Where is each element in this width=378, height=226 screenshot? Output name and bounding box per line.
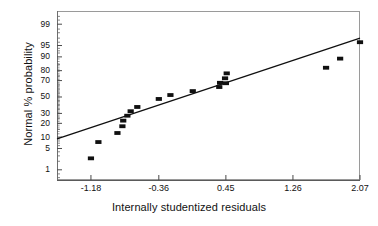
data-point-marker [167, 93, 173, 97]
data-point-marker [357, 40, 363, 44]
y-tick-label: 10 [41, 133, 50, 142]
data-point-marker [323, 66, 329, 70]
y-tick-label: 95 [41, 41, 50, 50]
data-point-marker [134, 105, 140, 109]
data-point-marker [124, 114, 130, 118]
x-tick-label: 2.07 [351, 183, 369, 193]
y-tick-label: 50 [41, 92, 50, 101]
data-point-marker [95, 140, 101, 144]
y-tick-label: 5 [45, 144, 50, 153]
data-point-marker [223, 81, 229, 85]
data-point-marker [217, 81, 223, 85]
data-point-marker [114, 131, 120, 135]
y-tick-label: 99 [41, 20, 50, 29]
data-point-marker [88, 156, 94, 160]
y-axis-title: Normal % probability [22, 14, 34, 174]
y-tick-label: 80 [41, 66, 50, 75]
x-axis-title: Internally studentized residuals [0, 201, 378, 213]
data-point-marker [224, 71, 230, 75]
data-point-marker [222, 76, 228, 80]
x-tick-label: 1.26 [284, 183, 302, 193]
y-tick-label: 20 [41, 119, 50, 128]
data-point-marker [128, 109, 134, 113]
data-point-marker [156, 97, 162, 101]
y-tick-label: 1 [45, 165, 50, 174]
reference-line [57, 38, 360, 139]
data-point-marker [120, 119, 126, 123]
y-tick-label: 70 [41, 76, 50, 85]
x-tick-label: -1.18 [81, 183, 102, 193]
normal-probability-plot: 99959080705030201051 -1.18-0.360.451.262… [0, 0, 378, 226]
y-tick-label: 90 [41, 52, 50, 61]
data-point-marker [119, 124, 125, 128]
data-point-marker [190, 89, 196, 93]
data-point-marker [216, 85, 222, 89]
x-tick-label: -0.36 [149, 183, 170, 193]
data-layer [0, 0, 378, 226]
y-tick-label: 30 [41, 109, 50, 118]
data-point-marker [337, 57, 343, 61]
x-tick-label: 0.45 [217, 183, 235, 193]
